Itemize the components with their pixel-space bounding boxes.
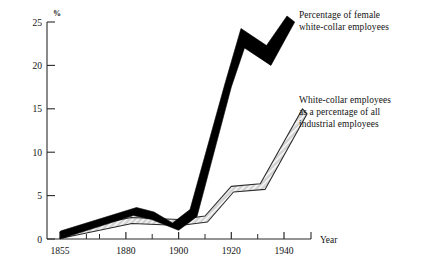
x-axis-minor-ticks bbox=[86, 234, 257, 239]
chart-plot-area: 25 20 15 10 5 0 % bbox=[0, 0, 422, 272]
chart-root: 25 20 15 10 5 0 % bbox=[0, 0, 422, 272]
x-tick-label-1920: 1920 bbox=[222, 245, 241, 256]
x-tick-label-1855: 1855 bbox=[50, 245, 69, 256]
y-axis-unit-label: % bbox=[53, 9, 61, 18]
y-axis-tick-labels: 25 20 15 10 5 0 bbox=[32, 17, 42, 245]
x-tick-label-1940: 1940 bbox=[274, 245, 293, 256]
legend-label-white-collar-share: White-collar employees as a percentage o… bbox=[299, 95, 391, 130]
x-axis-tick-labels: 1855 1880 1900 1920 1940 bbox=[50, 245, 293, 256]
y-axis-ticks bbox=[47, 22, 55, 239]
x-axis: 1855 1880 1900 1920 1940 Year bbox=[47, 232, 338, 256]
legend-female-line1: Percentage of female bbox=[299, 10, 389, 22]
x-axis-caption: Year bbox=[320, 235, 338, 245]
legend-label-female-white-collar: Percentage of female white-collar employ… bbox=[299, 10, 389, 34]
y-tick-label-0: 0 bbox=[37, 234, 42, 245]
x-tick-label-1900: 1900 bbox=[169, 245, 188, 256]
y-tick-label-15: 15 bbox=[32, 103, 42, 114]
y-tick-label-25: 25 bbox=[32, 17, 42, 28]
y-tick-label-20: 20 bbox=[32, 60, 42, 71]
legend-female-line2: white-collar employees bbox=[299, 22, 389, 34]
legend-total-line1: White-collar employees bbox=[299, 95, 391, 107]
y-tick-label-10: 10 bbox=[32, 147, 42, 158]
legend-total-line2: as a percentage of all bbox=[299, 107, 391, 119]
legend-total-line3: industrial employees bbox=[299, 119, 391, 131]
x-axis-major-ticks bbox=[60, 232, 284, 239]
x-tick-label-1880: 1880 bbox=[116, 245, 135, 256]
y-tick-label-5: 5 bbox=[37, 190, 42, 201]
series-female-white-collar bbox=[60, 16, 295, 239]
y-axis: 25 20 15 10 5 0 % bbox=[32, 9, 61, 245]
